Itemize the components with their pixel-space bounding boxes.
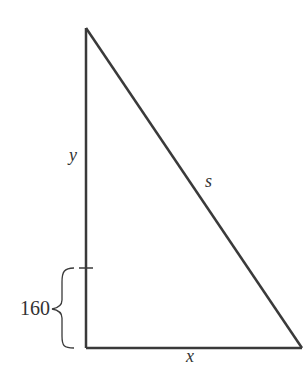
hypotenuse-label: s — [205, 171, 212, 191]
brace-length-label: 160 — [20, 297, 50, 319]
horizontal-side-label: x — [185, 346, 194, 366]
hypotenuse — [86, 28, 302, 348]
curly-brace — [52, 268, 74, 348]
vertical-side-label: y — [67, 145, 77, 165]
triangle-diagram: 160 y s x — [0, 0, 306, 379]
